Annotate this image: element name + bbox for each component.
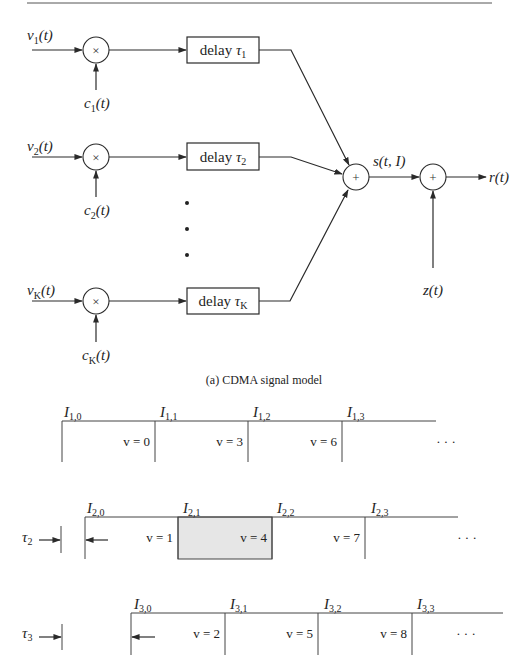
v-index-label: v = 7	[333, 530, 360, 545]
plus-icon: +	[352, 170, 359, 185]
delay-to-sum-2	[259, 157, 342, 174]
offset-label-tau2: τ2	[22, 529, 32, 547]
interval-label: I2,0	[86, 500, 105, 518]
multiply-icon: ×	[92, 294, 99, 309]
code-label-ck: cK(t)	[82, 347, 110, 366]
v-index-label: v = 3	[216, 434, 243, 449]
interval-label: I2,1	[182, 500, 201, 518]
interval-label: I1,0	[63, 404, 82, 422]
cdma-signal-model: v1(t) × c1(t) delay τ1 v2(t) × c2(t) del…	[27, 27, 509, 387]
symbol-timing-diagram: I1,0 I1,1 I1,2 I1,3 v = 0 v = 3 v = 6 · …	[22, 404, 503, 655]
v-index-label: v = 5	[286, 626, 313, 641]
interval-label: I1,3	[346, 404, 365, 422]
code-label-c1: c1(t)	[84, 95, 110, 114]
offset-label-tau3: τ3	[22, 625, 32, 643]
continuation-ellipsis: · · ·	[457, 530, 477, 545]
input-label-vk: vK(t)	[27, 282, 55, 301]
plus-icon: +	[429, 170, 436, 185]
delay-to-sum-k	[259, 190, 348, 301]
interval-label: I1,2	[252, 404, 271, 422]
multiply-icon: ×	[92, 43, 99, 58]
v-index-label: v = 4	[240, 530, 267, 545]
input-label-v1: v1(t)	[27, 27, 53, 46]
delay-to-sum-1	[259, 50, 349, 165]
interval-label: I1,1	[159, 404, 178, 422]
input-label-v2: v2(t)	[27, 138, 53, 157]
sum-output-label: s(t, I)	[373, 153, 406, 170]
interval-label: I3,0	[133, 596, 152, 614]
timing-row-user-1: I1,0 I1,1 I1,2 I1,3 v = 0 v = 3 v = 6 · …	[62, 404, 456, 462]
v-index-label: v = 8	[380, 626, 407, 641]
continuation-ellipsis: · · ·	[456, 626, 476, 641]
cdma-figure: v1(t) × c1(t) delay τ1 v2(t) × c2(t) del…	[0, 0, 528, 663]
interval-label: I3,2	[323, 596, 342, 614]
output-label: r(t)	[489, 169, 509, 186]
code-label-c2: c2(t)	[84, 202, 110, 221]
noise-label: z(t)	[422, 282, 443, 299]
figure-caption-a: (a) CDMA signal model	[206, 373, 323, 387]
v-index-label: v = 0	[123, 434, 150, 449]
interval-label: I2,2	[276, 500, 295, 518]
interval-label: I3,1	[229, 596, 248, 614]
user-branch-2: v2(t) × c2(t) delay τ2	[27, 138, 342, 221]
v-index-label: v = 6	[310, 434, 337, 449]
user-branch-k: vK(t) × cK(t) delay τK	[27, 190, 348, 366]
delay-label-1: delay τ1	[200, 42, 247, 60]
delay-label-2: delay τ2	[200, 149, 247, 167]
more-users-ellipsis	[185, 201, 189, 257]
timing-row-user-3: I3,0 I3,1 I3,2 I3,3 v = 2 v = 5 v = 8 · …	[22, 596, 503, 655]
continuation-ellipsis: · · ·	[436, 434, 456, 449]
multiply-icon: ×	[92, 150, 99, 165]
interval-label: I3,3	[416, 596, 435, 614]
v-index-label: v = 2	[193, 626, 220, 641]
interval-label: I2,3	[370, 500, 389, 518]
v-index-label: v = 1	[146, 530, 173, 545]
timing-row-user-2: I2,0 I2,1 I2,2 I2,3 v = 1 v = 4 v = 7 · …	[22, 500, 477, 559]
